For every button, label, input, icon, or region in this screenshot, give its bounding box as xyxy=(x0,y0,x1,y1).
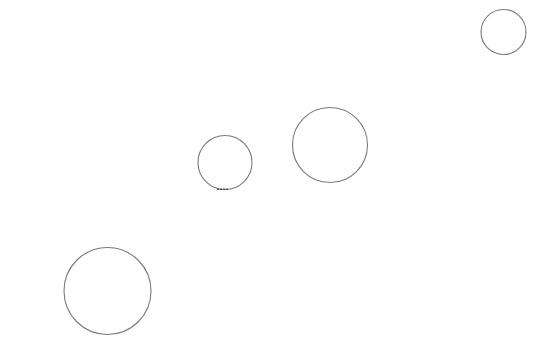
circle-medium-middle[interactable] xyxy=(293,108,368,183)
drawing-canvas[interactable] xyxy=(0,0,538,355)
circle-top-right[interactable] xyxy=(481,10,526,55)
circle-small-middle[interactable] xyxy=(198,136,252,190)
shape-layer xyxy=(0,0,538,355)
circle-large-bottom-left[interactable] xyxy=(64,248,151,335)
